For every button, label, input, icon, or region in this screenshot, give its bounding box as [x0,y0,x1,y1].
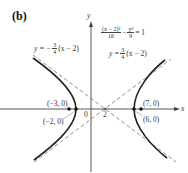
equation-den1: 16 [108,33,114,39]
right-vertex-label: (6, 0) [143,116,159,124]
equation-rhs: = 1 [135,29,145,37]
origin-label: 0 [84,111,88,119]
hyperbola-equation: (x − 2)² 16 − y² 9 = 1 [101,26,145,39]
hyperbola-figure: (b) y x 0 2 (x − 2)² 16 − y² 9 = 1 y = 3… [0,0,188,173]
panel-label: (b) [12,10,27,22]
equation-num1: (x − 2)² [101,26,121,33]
left-vertex-dot [74,107,78,111]
y-axis-label: y [87,12,90,20]
equation-den2: 9 [129,33,132,39]
x-axis-label: x [181,105,184,113]
asymptote-positive-label: y = 3 4 (x − 2) [109,47,147,60]
center-tick-label: 2 [103,111,107,119]
y-axis [89,21,93,172]
left-focus-label: (−3, 0) [47,100,67,108]
left-vertex-leader [63,111,75,119]
x-axis-arrow-icon [174,107,180,111]
left-focus-dot [67,107,71,111]
right-focus-label: (7, 0) [143,100,159,108]
equation-minus: − [122,29,126,37]
asymptote-negative-label: y = − 3 4 (x − 2) [34,42,79,55]
equation-num2: y² [127,26,134,33]
right-vertex-leader [135,111,143,116]
right-vertex-dot [132,107,136,111]
left-vertex-label: (−2, 0) [43,118,63,126]
y-axis-arrow-icon [89,21,93,27]
